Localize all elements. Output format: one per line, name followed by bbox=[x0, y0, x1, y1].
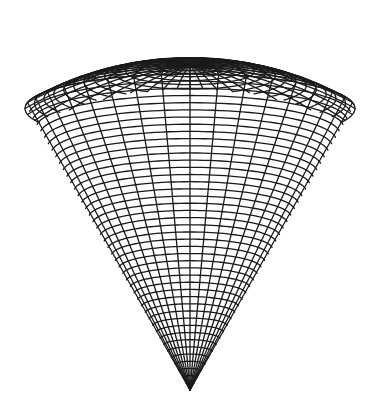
cone-wireframe-figure bbox=[0, 0, 380, 417]
